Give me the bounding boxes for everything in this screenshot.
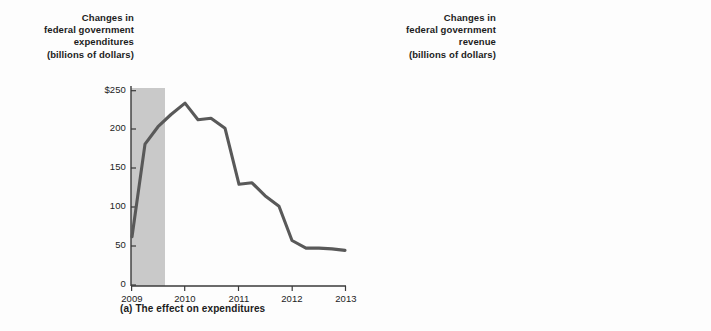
y-tick-label-50: 50 — [83, 239, 126, 250]
y-axis-title-revenue: Changes in federal government revenue (b… — [368, 12, 496, 61]
expenditures-line-chart — [131, 88, 346, 286]
x-tick-label-2012: 2012 — [272, 293, 312, 304]
panel-a-caption: (a) The effect on expenditures — [120, 303, 265, 314]
y-tick-label-100: 100 — [83, 200, 126, 211]
figure-two-panel-fiscal-stimulus: Changes in federal government expenditur… — [0, 0, 711, 331]
y-tick-label-200: 200 — [83, 122, 126, 133]
y-axis-title-expenditures: Changes in federal government expenditur… — [6, 12, 134, 61]
y-tick-label-0: 0 — [83, 278, 126, 289]
y-tick-label-250: $250 — [83, 84, 126, 95]
panel-expenditures: Changes in federal government expenditur… — [0, 0, 360, 331]
y-tick-label-150: 150 — [83, 161, 126, 172]
x-axis-ticks — [132, 286, 346, 291]
panel-revenue: Changes in federal government revenue (b… — [360, 0, 711, 331]
recession-shade-region — [131, 88, 165, 286]
plot-area-expenditures: $250 200 150 100 50 0 2009 2010 2011 201… — [131, 88, 346, 286]
